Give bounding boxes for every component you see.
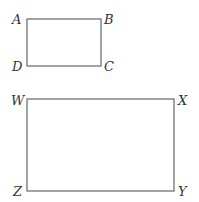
- rectangle-wxyz-shape: [27, 99, 174, 191]
- rectangle-abcd: A B C D: [11, 12, 114, 74]
- vertex-label-d: D: [11, 59, 23, 74]
- rectangle-wxyz: W X Y Z: [11, 93, 188, 199]
- vertex-label-a: A: [11, 12, 21, 27]
- vertex-label-w: W: [11, 93, 26, 108]
- diagram-canvas: A B C D W X Y Z: [0, 0, 199, 202]
- vertex-label-x: X: [177, 93, 188, 108]
- vertex-label-y: Y: [178, 184, 188, 199]
- vertex-label-z: Z: [12, 184, 23, 199]
- vertex-label-c: C: [104, 59, 114, 74]
- rectangle-abcd-shape: [27, 19, 101, 66]
- vertex-label-b: B: [103, 12, 114, 27]
